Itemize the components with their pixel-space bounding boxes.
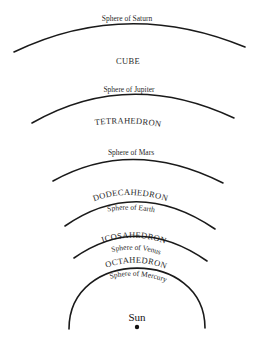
sphere-saturn: Sphere of Saturn bbox=[14, 14, 245, 52]
sphere-earth: Sphere of Earth bbox=[65, 202, 215, 229]
mars-arc bbox=[53, 159, 223, 183]
mars-label: Sphere of Mars bbox=[108, 148, 154, 157]
saturn-label: Sphere of Saturn bbox=[102, 14, 153, 23]
sun: Sun bbox=[128, 311, 146, 329]
dodecahedron-label: DODECAHEDRON bbox=[91, 187, 169, 203]
sun-label: Sun bbox=[128, 311, 146, 323]
cube-label: CUBE bbox=[116, 56, 140, 66]
venus-label: Sphere of Venus bbox=[110, 243, 162, 257]
jupiter-label: Sphere of Jupiter bbox=[103, 85, 155, 94]
sphere-mars: Sphere of Mars bbox=[53, 148, 223, 183]
saturn-arc bbox=[14, 24, 245, 52]
sun-dot-icon bbox=[135, 325, 139, 329]
tetrahedron-label: TETRAHEDRON bbox=[94, 115, 162, 129]
kepler-nested-spheres-diagram: Sphere of Saturn CUBE Sphere of Jupiter … bbox=[0, 0, 254, 342]
